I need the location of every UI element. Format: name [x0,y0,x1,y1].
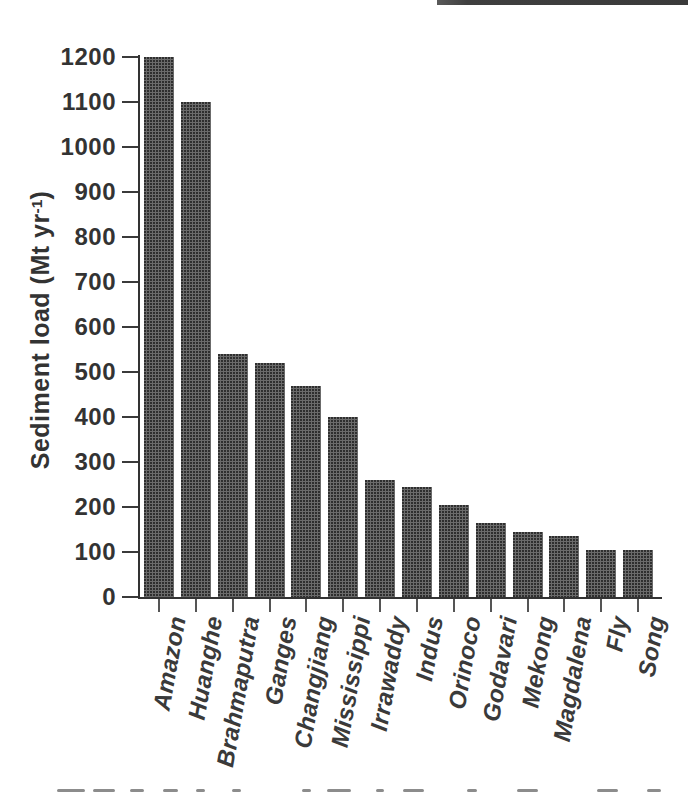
bar-irrawaddy [365,480,395,597]
caption-fragment-2 [130,789,144,792]
bar-changjiang [291,386,321,598]
x-tick-label-fly: Fly [600,614,634,654]
x-tick-label-indus: Indus [411,614,450,683]
bar-mekong [513,532,543,597]
caption-fragment-1 [93,789,115,792]
x-tick-mark-indus [416,599,418,612]
bar-ganges [255,363,285,597]
y-tick-label-300: 300 [26,448,116,476]
y-tick-label-200: 200 [26,493,116,521]
y-tick-label-600: 600 [26,313,116,341]
bar-mississippi [328,417,358,597]
caption-fragment-4 [196,789,205,792]
x-tick-mark-fly [600,599,602,612]
bar-huanghe [181,102,211,597]
bar-magdalena [549,536,579,597]
caption-fragment-10 [467,789,477,792]
x-tick-label-ganges: Ganges [259,614,302,707]
y-tick-label-1000: 1000 [26,133,116,161]
caption-fragment-7 [327,789,351,792]
y-axis-line [138,55,140,599]
x-tick-mark-godavari [490,599,492,612]
y-tick-label-800: 800 [26,223,116,251]
caption-fragment-8 [376,789,384,792]
scanned-figure-page: Sediment load (Mt yr-1) 0100200300400500… [0,0,688,796]
page-scan-edge-artifact [437,0,688,5]
caption-fragment-11 [517,789,538,792]
caption-fragment-12 [597,789,618,792]
x-tick-mark-mississippi [342,599,344,612]
x-tick-mark-mekong [527,599,529,612]
x-tick-label-mekong: Mekong [516,614,560,710]
bar-fly [586,550,616,597]
x-tick-mark-brahmaputra [232,599,234,612]
x-tick-label-song: Song [632,614,670,679]
caption-fragment-5 [232,789,241,792]
bar-brahmaputra [218,354,248,597]
y-tick-label-400: 400 [26,403,116,431]
y-tick-label-1100: 1100 [26,88,116,116]
y-tick-label-1200: 1200 [26,43,116,71]
caption-fragment-0 [57,789,85,792]
y-tick-label-500: 500 [26,358,116,386]
y-tick-label-900: 900 [26,178,116,206]
y-tick-label-700: 700 [26,268,116,296]
caption-fragment-13 [647,789,661,792]
caption-fragment-9 [403,789,424,792]
bar-song [623,550,653,597]
bar-indus [402,487,432,597]
y-tick-label-100: 100 [26,538,116,566]
x-tick-mark-changjiang [305,599,307,612]
x-tick-mark-magdalena [563,599,565,612]
x-tick-mark-ganges [269,599,271,612]
x-tick-mark-huanghe [195,599,197,612]
bar-orinoco [439,505,469,597]
caption-fragment-3 [163,789,178,792]
x-tick-mark-song [637,599,639,612]
x-tick-mark-irrawaddy [379,599,381,612]
x-tick-mark-amazon [158,599,160,612]
x-tick-mark-orinoco [453,599,455,612]
x-axis-line [138,597,662,599]
bar-godavari [476,523,506,597]
y-tick-label-0: 0 [26,583,116,611]
caption-fragment-6 [302,789,311,792]
bar-amazon [144,57,174,597]
